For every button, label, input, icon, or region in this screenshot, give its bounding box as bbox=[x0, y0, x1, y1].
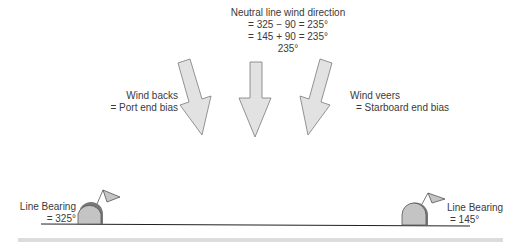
wind-veers-label: Wind veers = Starboard end bias bbox=[350, 90, 449, 114]
neutral-wind-label: Neutral line wind direction = 325 − 90 =… bbox=[208, 7, 368, 55]
wind-backs-desc: = Port end bias bbox=[100, 102, 178, 114]
port-end-buoy-icon bbox=[78, 190, 120, 224]
port-bearing-title: Line Bearing bbox=[0, 201, 76, 213]
wind-backs-label: Wind backs = Port end bias bbox=[100, 90, 178, 114]
starboard-end-buoy-icon bbox=[402, 193, 445, 225]
wind-veers-arrow-icon bbox=[300, 59, 332, 135]
wind-backs-arrow-icon bbox=[178, 59, 211, 135]
neutral-wind-arrow-icon bbox=[239, 62, 271, 137]
neutral-title: Neutral line wind direction bbox=[208, 7, 368, 19]
wind-veers-title: Wind veers bbox=[350, 90, 449, 102]
starboard-bearing-title: Line Bearing bbox=[447, 202, 503, 214]
neutral-calc-2: = 145 + 90 = 235° bbox=[208, 31, 368, 43]
bottom-divider-bar bbox=[18, 238, 503, 242]
wind-veers-desc: = Starboard end bias bbox=[350, 102, 449, 114]
port-line-bearing-label: Line Bearing = 325° bbox=[0, 201, 76, 225]
starboard-line-bearing-label: Line Bearing = 145° bbox=[447, 202, 503, 226]
port-bearing-value: = 325° bbox=[0, 213, 76, 225]
starboard-bearing-value: = 145° bbox=[447, 214, 503, 226]
neutral-calc-1: = 325 − 90 = 235° bbox=[208, 19, 368, 31]
wind-backs-title: Wind backs bbox=[100, 90, 178, 102]
neutral-result: 235° bbox=[208, 43, 368, 55]
